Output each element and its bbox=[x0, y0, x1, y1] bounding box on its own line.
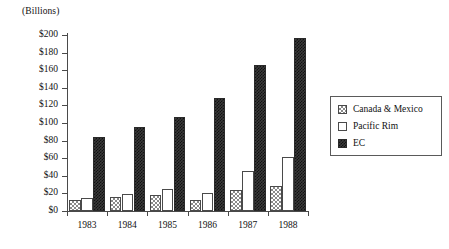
bar bbox=[134, 127, 146, 211]
bar bbox=[294, 38, 306, 211]
y-axis-tick-label: $120 bbox=[39, 100, 58, 110]
bar bbox=[254, 65, 266, 211]
x-axis-tick-mark bbox=[228, 211, 229, 216]
x-axis-tick-mark bbox=[308, 211, 309, 216]
y-axis-tick-mark bbox=[62, 35, 68, 36]
y-axis-tick-mark bbox=[62, 176, 68, 177]
x-axis-tick-label: 1983 bbox=[67, 220, 107, 230]
bar bbox=[174, 117, 186, 211]
x-axis-tick-label: 1986 bbox=[188, 220, 228, 230]
legend-item-label: Canada & Mexico bbox=[353, 104, 423, 114]
legend-item[interactable]: Canada & Mexico bbox=[338, 104, 434, 114]
x-axis-tick-mark bbox=[147, 211, 148, 216]
bar bbox=[69, 200, 81, 211]
y-axis-tick-label: $180 bbox=[39, 48, 58, 58]
bar bbox=[230, 190, 242, 211]
legend-item-label: EC bbox=[353, 138, 365, 148]
y-axis-tick-mark bbox=[62, 53, 68, 54]
y-axis-tick-label: $160 bbox=[39, 65, 58, 75]
y-axis-tick-mark bbox=[62, 70, 68, 71]
legend-swatch-icon bbox=[338, 105, 347, 114]
y-axis-tick-mark bbox=[62, 141, 68, 142]
bar bbox=[214, 98, 226, 211]
legend-item[interactable]: EC bbox=[338, 138, 434, 148]
bar bbox=[81, 198, 93, 211]
x-axis-tick-label: 1985 bbox=[147, 220, 187, 230]
x-axis-tick-mark bbox=[67, 211, 68, 216]
y-axis-tick-mark bbox=[62, 193, 68, 194]
y-axis-tick-label: $200 bbox=[39, 30, 58, 40]
legend-item-label: Pacific Rim bbox=[353, 121, 398, 131]
y-axis-tick-label: $60 bbox=[44, 153, 58, 163]
bar bbox=[202, 193, 214, 211]
legend-swatch-icon bbox=[338, 139, 347, 148]
units-caption: (Billions) bbox=[22, 6, 59, 16]
x-axis-tick-mark bbox=[188, 211, 189, 216]
bar bbox=[110, 197, 122, 211]
y-axis-tick-mark bbox=[62, 158, 68, 159]
bar bbox=[242, 171, 254, 211]
y-axis-tick-mark bbox=[62, 123, 68, 124]
legend-item[interactable]: Pacific Rim bbox=[338, 121, 434, 131]
bar bbox=[122, 194, 134, 211]
y-axis-tick-label: $100 bbox=[39, 118, 58, 128]
y-axis-tick-label: $80 bbox=[44, 136, 58, 146]
bar bbox=[190, 200, 202, 211]
bar bbox=[270, 186, 282, 211]
legend: Canada & MexicoPacific RimEC bbox=[330, 96, 442, 156]
x-axis-tick-mark bbox=[268, 211, 269, 216]
y-axis-tick-mark bbox=[62, 105, 68, 106]
x-axis-tick-label: 1988 bbox=[268, 220, 308, 230]
bar bbox=[93, 137, 105, 211]
x-axis-tick-label: 1987 bbox=[228, 220, 268, 230]
legend-swatch-icon bbox=[338, 122, 347, 131]
y-axis-tick-label: $20 bbox=[44, 188, 58, 198]
x-axis-tick-label: 1984 bbox=[107, 220, 147, 230]
y-axis-tick-mark bbox=[62, 88, 68, 89]
bar bbox=[150, 195, 162, 211]
bar-chart: (Billions) $0$20$40$60$80$100$120$140$16… bbox=[0, 0, 449, 249]
y-axis-tick-label: $0 bbox=[49, 206, 59, 216]
bar bbox=[162, 189, 174, 211]
y-axis-tick-label: $40 bbox=[44, 171, 58, 181]
plot-area: $0$20$40$60$80$100$120$140$160$180$200 1… bbox=[67, 35, 308, 211]
x-axis-tick-mark bbox=[107, 211, 108, 216]
y-axis-tick-label: $140 bbox=[39, 83, 58, 93]
bar bbox=[282, 157, 294, 211]
